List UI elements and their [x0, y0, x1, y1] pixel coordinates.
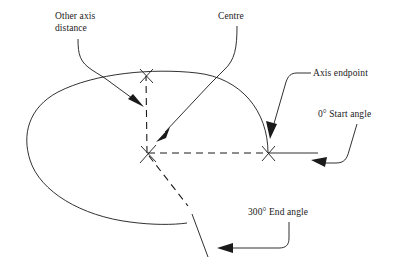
label-other-axis-distance-line2: distance [55, 23, 87, 33]
label-start-angle: 0° Start angle [318, 109, 371, 121]
minor-axis-dashed-line [146, 76, 147, 153]
ellipse-parameter-diagram: Other axis distance Centre Axis endpoint… [0, 0, 405, 275]
leader-end-angle [217, 222, 289, 253]
x-marker-centre [140, 145, 156, 163]
leader-axis-endpoint [266, 73, 311, 139]
leader-other-axis-distance [78, 39, 144, 107]
end-angle-tick-segment [192, 214, 208, 257]
leader-centre [156, 26, 237, 142]
label-end-angle: 300° End angle [248, 207, 308, 219]
label-other-axis-distance: Other axis distance [55, 11, 95, 34]
label-axis-endpoint: Axis endpoint [313, 68, 368, 80]
label-centre: Centre [218, 11, 244, 23]
end-angle-dashed-ray [149, 156, 188, 206]
label-other-axis-distance-line1: Other axis [55, 11, 95, 21]
diagram-canvas [0, 0, 405, 275]
leader-start-angle [311, 124, 357, 167]
x-marker-axis-endpoint [262, 146, 275, 161]
